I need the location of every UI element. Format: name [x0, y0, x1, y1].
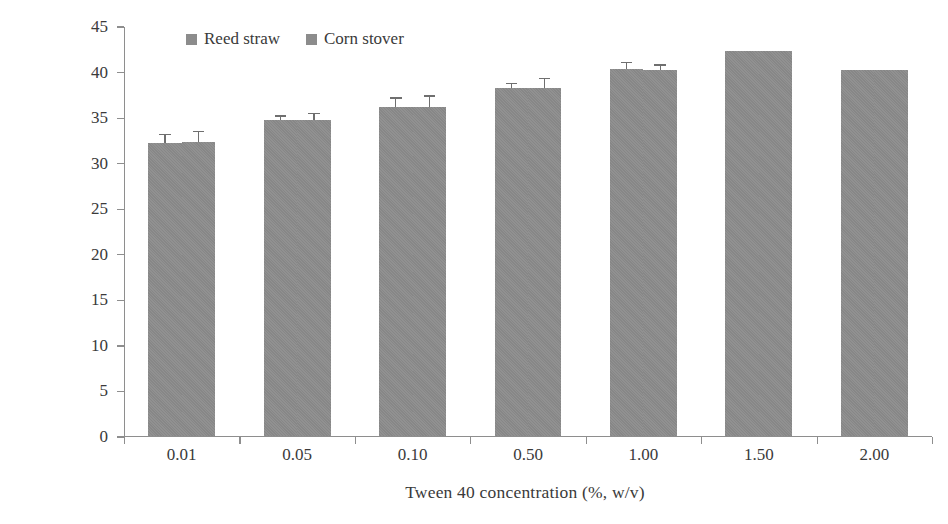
- chart-figure: Ethanol concentration (g/L) Reed strawCo…: [0, 0, 948, 524]
- x-tick: [701, 437, 702, 444]
- bar: [725, 51, 758, 435]
- y-axis-line: [124, 27, 125, 437]
- bar: [182, 142, 215, 435]
- error-bar-cap: [424, 95, 435, 96]
- bar: [759, 51, 792, 435]
- bar: [528, 88, 561, 436]
- error-bar-cap: [654, 64, 665, 65]
- bar: [841, 70, 874, 435]
- y-tick-label: 45: [91, 17, 108, 37]
- error-bar-cap: [506, 83, 517, 84]
- error-bar: [164, 135, 165, 143]
- x-tick: [355, 437, 356, 444]
- y-tick-label: 35: [91, 108, 108, 128]
- error-bar-cap: [159, 134, 170, 135]
- x-tick: [586, 437, 587, 444]
- bar: [643, 70, 676, 435]
- error-bar: [395, 99, 396, 107]
- error-bar-cap: [621, 62, 632, 63]
- x-tick: [932, 437, 933, 444]
- bar: [264, 120, 297, 435]
- error-bar-cap: [390, 97, 401, 98]
- bar: [874, 70, 907, 435]
- x-tick: [124, 437, 125, 444]
- error-bar: [660, 66, 661, 71]
- y-tick: 0: [117, 436, 124, 437]
- y-tick: 45: [117, 26, 124, 27]
- y-tick-label: 5: [100, 381, 109, 401]
- x-tick-label: 0.01: [167, 445, 197, 465]
- error-bar-cap: [193, 131, 204, 132]
- y-tick: 20: [117, 254, 124, 255]
- y-tick: 10: [117, 345, 124, 346]
- x-axis-line: [124, 436, 932, 437]
- x-axis-title: Tween 40 concentration (%, w/v): [120, 482, 930, 503]
- x-tick-label: 1.50: [744, 445, 774, 465]
- y-tick: 30: [117, 163, 124, 164]
- error-bar: [544, 79, 545, 87]
- y-tick-label: 10: [91, 336, 108, 356]
- y-tick: 15: [117, 300, 124, 301]
- bar: [413, 107, 446, 436]
- x-tick-label: 1.00: [629, 445, 659, 465]
- y-tick: 25: [117, 209, 124, 210]
- x-tick-label: 0.05: [282, 445, 312, 465]
- plot-area: 051015202530354045 0.010.050.100.501.001…: [124, 27, 932, 437]
- error-bar: [626, 63, 627, 69]
- bar: [297, 120, 330, 435]
- y-tick-label: 0: [100, 427, 109, 447]
- x-tick-label: 2.00: [859, 445, 889, 465]
- y-tick: 40: [117, 72, 124, 73]
- x-tick-label: 0.50: [513, 445, 543, 465]
- y-tick: 35: [117, 118, 124, 119]
- error-bar-cap: [308, 113, 319, 114]
- y-tick-label: 30: [91, 154, 108, 174]
- y-tick-label: 15: [91, 290, 108, 310]
- bar: [148, 143, 181, 435]
- error-bar: [313, 114, 314, 120]
- error-bar: [198, 132, 199, 142]
- x-tick: [239, 437, 240, 444]
- x-tick: [470, 437, 471, 444]
- x-tick: [817, 437, 818, 444]
- y-tick: 5: [117, 391, 124, 392]
- error-bar-cap: [539, 78, 550, 79]
- error-bar-cap: [275, 115, 286, 116]
- x-tick-label: 0.10: [398, 445, 428, 465]
- bar: [495, 88, 528, 435]
- bar: [379, 107, 412, 436]
- y-tick-label: 20: [91, 245, 108, 265]
- y-tick-label: 40: [91, 63, 108, 83]
- error-bar: [429, 97, 430, 107]
- bar: [610, 69, 643, 435]
- error-bar: [511, 84, 512, 89]
- error-bar: [280, 117, 281, 121]
- y-tick-label: 25: [91, 199, 108, 219]
